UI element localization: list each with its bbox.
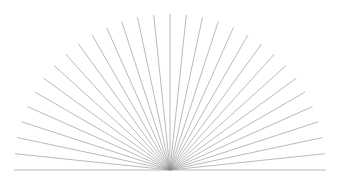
radial-fan-sunburst-chart bbox=[0, 0, 342, 189]
figure-canvas bbox=[0, 0, 342, 189]
